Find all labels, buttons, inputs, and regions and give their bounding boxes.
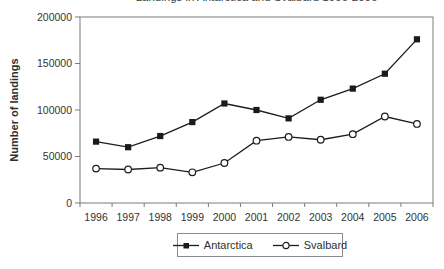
y-tick-label: 50000 — [43, 150, 72, 162]
data-point-antarctica — [350, 86, 356, 92]
chart-legend: Antarctica Svalbard — [177, 233, 343, 257]
data-point-svalbard — [349, 131, 356, 138]
data-point-antarctica — [414, 36, 420, 42]
data-point-antarctica — [189, 119, 195, 125]
data-point-antarctica — [253, 107, 259, 113]
y-tick-label: 150000 — [37, 57, 72, 69]
data-point-antarctica — [93, 139, 99, 145]
data-point-svalbard — [285, 134, 292, 141]
landings-line-chart: Landings in Antarctica and Svalbard 1996… — [0, 0, 444, 269]
legend-label-antarctica: Antarctica — [204, 239, 253, 251]
x-tick-label: 2001 — [245, 211, 269, 223]
x-tick-label: 1999 — [181, 211, 205, 223]
data-point-svalbard — [125, 166, 132, 173]
x-tick-label: 2004 — [341, 211, 365, 223]
x-tick-label: 2003 — [309, 211, 333, 223]
data-point-antarctica — [125, 144, 131, 150]
x-tick-label: 2005 — [373, 211, 397, 223]
legend-label-svalbard: Svalbard — [304, 239, 347, 251]
series-line-antarctica — [96, 39, 417, 147]
legend-item-antarctica: Antarctica — [173, 239, 253, 251]
data-point-svalbard — [189, 169, 196, 176]
antarctica-filled-square-marker-icon — [173, 241, 199, 250]
data-point-svalbard — [317, 136, 324, 143]
y-tick-label: 100000 — [37, 104, 72, 116]
x-tick-label: 1998 — [149, 211, 173, 223]
x-tick-label: 1996 — [84, 211, 108, 223]
data-point-svalbard — [253, 137, 260, 144]
plot-area: 0500001000001500002000001996199719981999… — [0, 0, 444, 269]
x-tick-label: 2002 — [277, 211, 301, 223]
x-tick-label: 2000 — [213, 211, 237, 223]
data-point-svalbard — [93, 165, 100, 172]
data-point-antarctica — [285, 115, 291, 121]
data-point-svalbard — [221, 160, 228, 167]
data-point-svalbard — [382, 113, 389, 120]
data-point-antarctica — [157, 133, 163, 139]
x-tick-label: 1997 — [116, 211, 140, 223]
data-point-antarctica — [382, 71, 388, 77]
data-point-svalbard — [414, 121, 421, 128]
y-tick-label: 0 — [66, 197, 72, 209]
legend-item-svalbard: Svalbard — [273, 239, 347, 251]
data-point-antarctica — [318, 97, 324, 103]
data-point-antarctica — [221, 100, 227, 106]
data-point-svalbard — [157, 164, 164, 171]
x-tick-label: 2006 — [405, 211, 429, 223]
svalbard-open-circle-marker-icon — [273, 241, 299, 250]
y-tick-label: 200000 — [37, 11, 72, 23]
